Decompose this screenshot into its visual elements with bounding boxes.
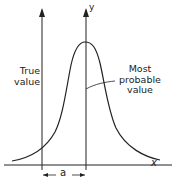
offset-left-arrowhead-icon [43, 173, 48, 177]
true-value-label-line1: True [10, 66, 40, 77]
most-probable-label-line2: value [110, 85, 170, 96]
most-probable-label-line1: Most probable [110, 64, 170, 85]
true-value-label-line2: value [10, 77, 40, 88]
offset-label: a [60, 168, 66, 179]
true-value-arrow-icon [39, 8, 45, 17]
y-axis-label: y [89, 2, 94, 13]
offset-right-arrowhead-icon [80, 173, 85, 177]
x-axis-label: x [151, 158, 157, 169]
true-value-label: True value [10, 66, 40, 87]
most-probable-value-label: Most probable value [110, 64, 170, 96]
